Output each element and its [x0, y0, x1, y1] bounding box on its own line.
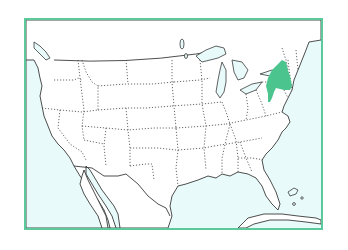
- small-lake: [185, 54, 188, 59]
- lake-winnipeg: [180, 39, 184, 49]
- us-map: [26, 20, 321, 228]
- bahamas-islands: [288, 188, 298, 196]
- map-frame: United States map with New York highligh…: [24, 18, 323, 230]
- island: [301, 197, 303, 199]
- island: [293, 203, 296, 206]
- cuba: [238, 214, 321, 228]
